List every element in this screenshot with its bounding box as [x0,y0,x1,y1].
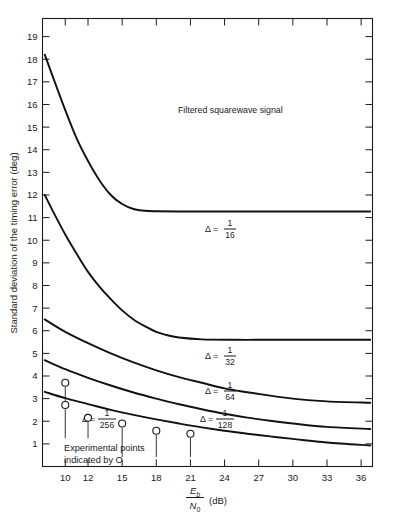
experimental-point-marker [85,414,92,421]
x-tick-label-30: 30 [288,472,299,483]
y-tick-label-15: 15 [27,122,38,133]
x-tick-label-12: 12 [83,472,94,483]
curve-label-delta-1-128: Δ =1128 [200,408,234,430]
y-axis-title: Standard deviation of the timing error (… [8,152,19,333]
y-axis-ticks-right [366,37,373,444]
x-tick-label-10: 10 [60,472,71,483]
y-tick-label-17: 17 [27,76,38,87]
curve-label-delta-1-32: Δ =132 [205,345,236,367]
y-tick-label-9: 9 [32,257,37,268]
experimental-point-marker [62,379,69,386]
x-tick-label-18: 18 [151,472,162,483]
x-axis-title: Eb N0 (dB) [186,485,227,513]
curve-label-delta-symbol-delta-1-128: Δ = [200,414,213,424]
x-axis-title-denominator: N0 [190,500,201,513]
y-tick-label-1: 1 [32,438,37,449]
curve-label-numerator-delta-1-64: 1 [228,380,233,390]
curve-delta-1-32 [45,195,370,340]
timing-error-chart: 10121518212427303336 1234567891011121314… [0,0,393,523]
curve-label-denominator-delta-1-64: 64 [225,392,235,402]
curve-label-numerator-delta-1-128: 1 [223,408,228,418]
y-tick-label-5: 5 [32,348,37,359]
experimental-note-line2: indicated by O [64,455,123,465]
curve-delta-1-16 [45,55,370,212]
x-axis-title-numerator: Eb [190,485,200,498]
x-axis-title-den-subscript: 0 [196,506,200,513]
y-tick-label-3: 3 [32,393,37,404]
y-tick-label-4: 4 [32,370,37,381]
y-tick-label-19: 19 [27,31,38,42]
y-tick-label-7: 7 [32,303,37,314]
plot-frame [43,19,373,467]
y-axis-ticks-left [43,37,50,444]
curve-label-delta-1-16: Δ =116 [205,218,236,240]
y-axis-tick-labels: 12345678910111213141516171819 [27,31,38,449]
curve-label-delta-symbol-delta-1-32: Δ = [205,351,218,361]
y-tick-label-10: 10 [27,235,38,246]
x-axis-tick-labels: 10121518212427303336 [60,472,366,483]
x-tick-label-27: 27 [253,472,264,483]
curve-label-numerator-delta-1-32: 1 [228,345,233,355]
curve-labels: Δ =116Δ =132Δ =164Δ =1128Δ =1256 [82,218,236,430]
experimental-point-marker [187,430,194,437]
x-axis-title-num-subscript: b [196,491,200,498]
x-axis-title-unit: (dB) [209,495,227,506]
curve-label-delta-symbol-delta-1-64: Δ = [205,386,218,396]
experimental-point-marker [62,401,69,408]
chart-figure: 10121518212427303336 1234567891011121314… [0,0,393,523]
x-tick-label-36: 36 [356,472,367,483]
experimental-point-marker [119,420,126,427]
y-tick-label-14: 14 [27,144,38,155]
curve-label-numerator-delta-1-16: 1 [228,218,233,228]
curve-label-denominator-delta-1-128: 128 [218,420,233,430]
y-tick-label-8: 8 [32,280,37,291]
curve-label-denominator-delta-1-16: 16 [225,230,235,240]
curve-label-numerator-delta-1-256: 1 [105,408,110,418]
x-axis-ticks-top [65,19,361,26]
curve-label-delta-1-64: Δ =164 [205,380,236,402]
curve-label-denominator-delta-1-256: 256 [100,420,115,430]
y-tick-label-13: 13 [27,167,38,178]
x-tick-label-24: 24 [219,472,230,483]
y-tick-label-16: 16 [27,99,38,110]
y-tick-label-6: 6 [32,325,37,336]
y-tick-label-18: 18 [27,54,38,65]
y-tick-label-12: 12 [27,189,38,200]
y-tick-label-11: 11 [28,212,38,223]
x-tick-label-33: 33 [322,472,333,483]
plot-annotation: Filtered squarewave signal [178,105,283,115]
x-tick-label-15: 15 [117,472,128,483]
x-tick-label-21: 21 [185,472,196,483]
curve-label-denominator-delta-1-32: 32 [225,357,235,367]
experimental-note-line1: Experimental points [64,443,145,453]
y-tick-label-2: 2 [32,416,37,427]
curve-label-delta-symbol-delta-1-16: Δ = [205,224,218,234]
experimental-point-marker [153,427,160,434]
